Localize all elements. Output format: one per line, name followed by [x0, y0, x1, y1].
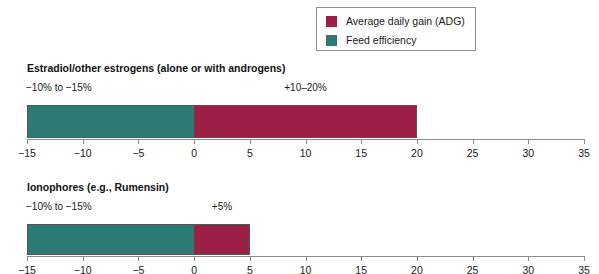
- bar-feed-efficiency: [27, 224, 194, 255]
- chart-legend: Average daily gain (ADG) Feed efficiency: [316, 7, 476, 51]
- x-axis-tick-label: 0: [191, 264, 197, 274]
- panel-title: Ionophores (e.g., Rumensin): [27, 181, 169, 193]
- x-axis-tick-label: −5: [132, 147, 144, 159]
- x-axis-tick: [27, 256, 28, 261]
- x-axis-tick-label: 35: [578, 147, 590, 159]
- x-axis-tick: [584, 256, 585, 261]
- x-axis-tick-label: 30: [522, 264, 534, 274]
- plot-area: −15−10−505101520253035: [0, 221, 599, 259]
- x-axis-tick-label: 20: [411, 264, 423, 274]
- x-axis-tick-label: 15: [355, 147, 367, 159]
- legend-swatch-adg-icon: [326, 16, 337, 27]
- x-axis-tick-label: 10: [300, 264, 312, 274]
- x-axis-tick-label: 20: [411, 147, 423, 159]
- x-axis-tick: [306, 139, 307, 144]
- x-axis-tick-label: 30: [522, 147, 534, 159]
- x-axis-tick-label: 0: [191, 147, 197, 159]
- x-axis-tick-label: −10: [74, 147, 92, 159]
- bar-adg: [194, 105, 417, 138]
- adg-value-label: +10–20%: [284, 82, 327, 93]
- adg-value-label: +5%: [212, 201, 232, 212]
- x-axis-tick-label: 10: [300, 147, 312, 159]
- legend-item-feed-efficiency: Feed efficiency: [326, 32, 475, 49]
- x-axis-tick: [194, 139, 195, 144]
- x-axis-tick: [417, 139, 418, 144]
- x-axis-tick: [417, 256, 418, 261]
- x-axis-tick-label: 25: [467, 147, 479, 159]
- x-axis-tick-label: −15: [18, 264, 36, 274]
- x-axis-tick: [528, 256, 529, 261]
- x-axis-tick: [361, 139, 362, 144]
- x-axis-tick: [27, 139, 28, 144]
- x-axis-tick: [361, 256, 362, 261]
- plot-area: −15−10−505101520253035: [0, 102, 599, 140]
- legend-label-adg: Average daily gain (ADG): [346, 16, 465, 27]
- legend-item-adg: Average daily gain (ADG): [326, 13, 475, 30]
- x-axis-tick: [306, 256, 307, 261]
- x-axis-tick: [473, 256, 474, 261]
- legend-label-feed-efficiency: Feed efficiency: [346, 35, 416, 46]
- bar-feed-efficiency: [27, 105, 194, 138]
- x-axis-tick-label: 35: [578, 264, 590, 274]
- feed-efficiency-value-label: −10% to −15%: [26, 82, 92, 93]
- x-axis-tick-label: 5: [247, 147, 253, 159]
- x-axis-tick: [473, 139, 474, 144]
- x-axis-tick: [138, 139, 139, 144]
- legend-swatch-feed-efficiency-icon: [326, 35, 337, 46]
- x-axis-tick-label: −10: [74, 264, 92, 274]
- x-axis-tick: [584, 139, 585, 144]
- x-axis-tick: [194, 256, 195, 261]
- x-axis-tick: [138, 256, 139, 261]
- x-axis-tick-label: 15: [355, 264, 367, 274]
- x-axis-tick-label: −5: [132, 264, 144, 274]
- x-axis-tick: [83, 139, 84, 144]
- x-axis-tick: [528, 139, 529, 144]
- x-axis-tick-label: 25: [467, 264, 479, 274]
- x-axis-tick: [250, 139, 251, 144]
- bar-adg: [194, 224, 250, 255]
- x-axis-tick-label: −15: [18, 147, 36, 159]
- x-axis-tick: [83, 256, 84, 261]
- x-axis-tick: [250, 256, 251, 261]
- x-axis-tick-label: 5: [247, 264, 253, 274]
- panel-title: Estradiol/other estrogens (alone or with…: [27, 62, 285, 74]
- feed-efficiency-value-label: −10% to −15%: [26, 201, 92, 212]
